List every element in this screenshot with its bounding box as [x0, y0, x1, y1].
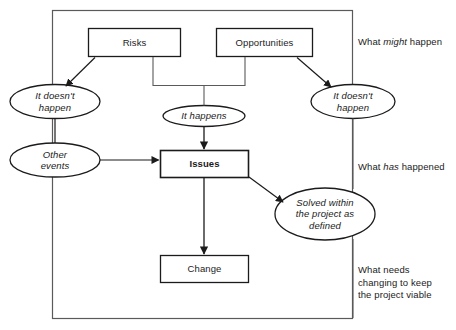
issues-box-shape[interactable] [161, 151, 249, 178]
side-note-might-happen-before: What [358, 36, 383, 47]
side-note-has-happened-before: What [358, 161, 383, 172]
side-note-might-happen: What might happen [358, 36, 454, 49]
it-happens-ellipse-shape[interactable] [163, 106, 245, 127]
edge-opportunities-to-it-happens [204, 57, 245, 86]
edge-risks-to-risk-not-happen [66, 58, 95, 87]
side-note-needs-changing: What needs changing to keep the project … [358, 264, 456, 302]
risk-not-happen-ellipse-shape[interactable] [10, 85, 100, 119]
diagram-canvas: Risks Opportunities It doesn't happen It… [0, 0, 456, 330]
side-note-has-happened-after: happened [399, 161, 445, 172]
change-box-shape[interactable] [161, 256, 249, 283]
solved-ellipse-shape[interactable] [275, 188, 375, 240]
risks-box-shape[interactable] [89, 29, 181, 57]
edge-risks-to-it-happens [153, 57, 204, 86]
side-note-has-happened: What has happened [358, 161, 454, 174]
other-events-ellipse-shape[interactable] [10, 143, 100, 177]
side-note-has-happened-emphasis: has [383, 161, 399, 172]
side-note-might-happen-after: happen [407, 36, 442, 47]
opportunity-not-happen-ellipse-shape[interactable] [311, 85, 395, 119]
edge-opportunities-to-opportunity-not-happen [297, 58, 331, 88]
edge-issues-to-solved [249, 177, 283, 202]
opportunities-box-shape[interactable] [217, 29, 313, 57]
side-note-might-happen-emphasis: might [383, 36, 407, 47]
